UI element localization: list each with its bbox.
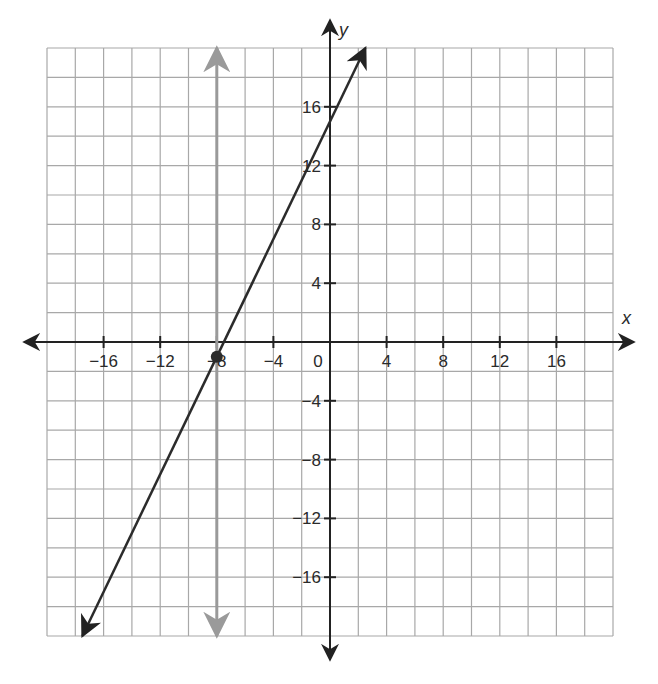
- x-tick-label: 4: [382, 352, 391, 371]
- tick-labels: −16−12−8−40481216161284−4−8−12−16xy: [89, 20, 632, 587]
- x-tick-label: 16: [547, 352, 566, 371]
- y-tick-label: −16: [292, 568, 321, 587]
- x-tick-label: 12: [490, 352, 509, 371]
- x-tick-label: −4: [264, 352, 283, 371]
- y-tick-label: 16: [302, 98, 321, 117]
- x-axis-label: x: [621, 308, 632, 328]
- x-tick-label: −12: [146, 352, 175, 371]
- coordinate-plane: −16−12−8−40481216161284−4−8−12−16xy: [0, 0, 658, 684]
- y-tick-label: −12: [292, 509, 321, 528]
- x-tick-label: −8: [207, 352, 226, 371]
- y-tick-label: −8: [302, 451, 321, 470]
- y-tick-label: 12: [302, 157, 321, 176]
- x-tick-label: 8: [438, 352, 447, 371]
- x-tick-label: 0: [313, 352, 322, 371]
- y-tick-label: 8: [312, 215, 321, 234]
- y-axis-label: y: [337, 20, 349, 40]
- y-tick-label: 4: [312, 274, 321, 293]
- x-tick-label: −16: [89, 352, 118, 371]
- axes: [24, 20, 634, 660]
- y-tick-label: −4: [302, 392, 321, 411]
